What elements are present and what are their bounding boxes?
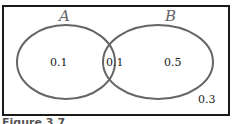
region-a-only: 0.1 [50,56,68,69]
set-b-label: B [164,7,176,25]
region-intersection: 0.1 [106,56,124,69]
region-b-only: 0.5 [164,56,182,69]
set-a-label: A [57,7,70,25]
region-outside: 0.3 [198,93,216,106]
figure-caption: Figure 3.7 [2,116,65,124]
venn-diagram: A B 0.1 0.1 0.5 0.3 [0,0,234,124]
